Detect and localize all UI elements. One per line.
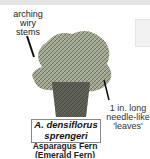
side-panel-edge (135, 19, 150, 47)
scientific-name-variety: sprengeri (32, 131, 100, 142)
scientific-name-genus: A. densiflorus (32, 120, 100, 131)
common-name-line2: (Emerald Fern) (35, 150, 95, 159)
annotation-leaves: 1 in. long needle-like 'leaves' (106, 104, 150, 131)
common-name: Asparagus Fern (Emerald Fern) (22, 142, 108, 158)
annotation-leaves-line3: 'leaves' (113, 121, 142, 131)
scientific-name-box: A. densiflorus sprengeri (31, 119, 101, 143)
top-strip (0, 0, 150, 5)
